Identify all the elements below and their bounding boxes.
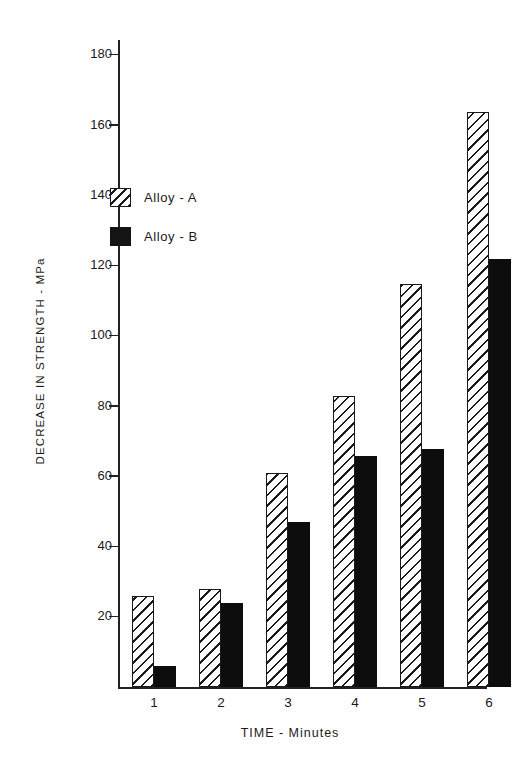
x-tick-label-3: 3 — [268, 695, 308, 710]
legend-item-alloy-b: Alloy - B — [110, 225, 198, 247]
x-tick-label-1: 1 — [134, 695, 174, 710]
y-axis-line — [118, 40, 120, 689]
bar-6-alloy-a — [467, 112, 489, 688]
y-tick-label: 40 — [98, 538, 112, 553]
x-tick-label-4: 4 — [335, 695, 375, 710]
chart-legend: Alloy - A Alloy - B — [110, 186, 198, 264]
y-tick-label: 20 — [98, 608, 112, 623]
bar-5-alloy-a — [400, 284, 422, 688]
bar-2-alloy-a — [199, 589, 221, 687]
bar-3-alloy-b — [288, 522, 310, 687]
y-tick-label: 120 — [90, 257, 112, 272]
y-tick-label: 140 — [90, 187, 112, 202]
bar-3-alloy-a — [266, 473, 288, 687]
legend-label-alloy-b: Alloy - B — [144, 229, 198, 244]
y-tick-label: 80 — [98, 398, 112, 413]
x-tick-label-5: 5 — [402, 695, 442, 710]
y-tick-label: 180 — [90, 46, 112, 61]
bar-2-alloy-b — [221, 603, 243, 687]
bar-6-alloy-b — [489, 259, 511, 687]
bar-4-alloy-a — [333, 396, 355, 687]
legend-label-alloy-a: Alloy - A — [144, 190, 197, 205]
bar-5-alloy-b — [422, 449, 444, 688]
y-axis-title: DECREASE IN STRENGTH - MPa — [34, 201, 46, 521]
bar-1-alloy-a — [132, 596, 154, 687]
chart-canvas: DECREASE IN STRENGTH - MPa 2040608010012… — [0, 0, 522, 762]
legend-swatch-hatched-icon — [110, 188, 131, 207]
x-tick-label-6: 6 — [469, 695, 509, 710]
legend-item-alloy-a: Alloy - A — [110, 186, 198, 208]
plot-area: 20406080100120140160180 123456 — [118, 40, 487, 689]
bar-4-alloy-b — [355, 456, 377, 688]
x-tick-label-2: 2 — [201, 695, 241, 710]
y-tick-label: 160 — [90, 117, 112, 132]
x-axis-title: TIME - Minutes — [90, 726, 490, 740]
y-tick-label: 60 — [98, 468, 112, 483]
legend-swatch-solid-icon — [110, 227, 131, 246]
bar-1-alloy-b — [154, 666, 176, 687]
y-tick-label: 100 — [90, 327, 112, 342]
x-axis-line — [118, 687, 487, 689]
